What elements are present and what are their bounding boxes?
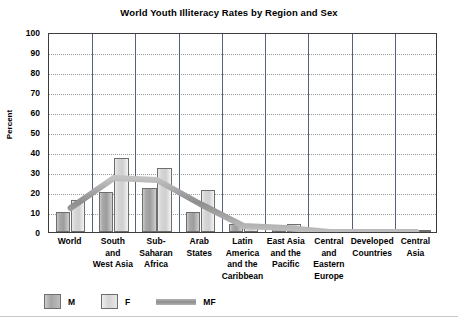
bar-m-7	[358, 230, 372, 233]
bar-m-6	[315, 230, 329, 233]
gridline	[49, 54, 436, 55]
y-tick-0: 0	[6, 228, 40, 238]
x-axis-category-labels: WorldSouthandWest AsiaSub-SaharanAfricaA…	[48, 236, 437, 298]
bar-f-4	[244, 224, 258, 232]
gridline	[49, 134, 436, 135]
x-category-line: Caribbean	[218, 271, 267, 283]
legend-label-m: M	[68, 297, 75, 307]
x-category-label-7: DevelopedCountries	[348, 236, 397, 259]
category-separator	[135, 34, 136, 232]
x-category-label-2: Sub-SaharanAfrica	[131, 236, 180, 271]
bar-f-0	[71, 200, 85, 232]
x-category-label-0: World	[45, 236, 94, 248]
legend-swatch-f-icon	[101, 294, 118, 309]
x-category-label-5: East Asiaand thePacific	[261, 236, 310, 271]
chart-legend: M F MF	[44, 294, 242, 309]
x-category-label-1: SouthandWest Asia	[88, 236, 137, 271]
y-tick-30: 30	[6, 168, 40, 178]
x-category-line: Developed	[348, 236, 397, 248]
x-category-line: Arab	[175, 236, 224, 248]
legend-item-f: F	[101, 294, 130, 309]
category-separator	[179, 34, 180, 232]
x-category-line: and	[304, 248, 353, 260]
x-category-line: Eastern	[304, 259, 353, 271]
legend-item-m: M	[44, 294, 75, 309]
x-category-label-3: ArabStates	[175, 236, 224, 259]
bar-f-2	[157, 168, 171, 232]
x-category-line: States	[175, 248, 224, 260]
gridline	[49, 74, 436, 75]
bar-f-7	[374, 230, 388, 233]
plot-area	[48, 33, 437, 233]
y-tick-50: 50	[6, 128, 40, 138]
y-tick-20: 20	[6, 188, 40, 198]
x-category-line: East Asia	[261, 236, 310, 248]
chart-figure: World Youth Illiteracy Rates by Region a…	[0, 0, 458, 323]
legend-label-mf: MF	[203, 297, 215, 307]
legend-swatch-m-icon	[44, 294, 61, 309]
bar-m-0	[56, 212, 70, 232]
category-separator	[352, 34, 353, 232]
y-axis-label: Percent	[5, 95, 14, 155]
gridline	[49, 154, 436, 155]
x-category-line: Countries	[348, 248, 397, 260]
x-category-line: Africa	[131, 259, 180, 271]
x-category-line: West Asia	[88, 259, 137, 271]
y-tick-90: 90	[6, 48, 40, 58]
bar-m-4	[229, 224, 243, 232]
x-category-line: Pacific	[261, 259, 310, 271]
x-category-line: and the	[218, 259, 267, 271]
x-category-line: and	[88, 248, 137, 260]
x-category-label-4: LatinAmericaand theCaribbean	[218, 236, 267, 282]
category-separator	[92, 34, 93, 232]
x-category-label-8: CentralAsia	[391, 236, 440, 259]
bottom-divider	[0, 316, 458, 317]
category-separator	[222, 34, 223, 232]
y-tick-60: 60	[6, 108, 40, 118]
bar-f-1	[114, 158, 128, 232]
legend-label-f: F	[125, 297, 130, 307]
category-separator	[265, 34, 266, 232]
bar-m-2	[142, 188, 156, 232]
x-category-line: Europe	[304, 271, 353, 283]
y-tick-80: 80	[6, 68, 40, 78]
bar-m-3	[186, 212, 200, 232]
x-category-line: Sub-	[131, 236, 180, 248]
x-category-line: Central	[304, 236, 353, 248]
x-category-line: World	[45, 236, 94, 248]
bar-f-6	[330, 230, 344, 233]
y-tick-70: 70	[6, 88, 40, 98]
gridline	[49, 174, 436, 175]
bar-f-8	[417, 230, 431, 233]
x-category-line: Asia	[391, 248, 440, 260]
x-category-line: Central	[391, 236, 440, 248]
y-tick-40: 40	[6, 148, 40, 158]
bar-m-5	[272, 228, 286, 232]
gridline	[49, 94, 436, 95]
bar-m-8	[402, 230, 416, 233]
x-category-line: Saharan	[131, 248, 180, 260]
chart-title: World Youth Illiteracy Rates by Region a…	[0, 7, 458, 18]
category-separator	[395, 34, 396, 232]
x-category-line: America	[218, 248, 267, 260]
x-category-line: Latin	[218, 236, 267, 248]
y-tick-10: 10	[6, 208, 40, 218]
x-category-label-6: CentralandEasternEurope	[304, 236, 353, 282]
x-category-line: South	[88, 236, 137, 248]
x-category-line: and the	[261, 248, 310, 260]
gridline	[49, 114, 436, 115]
category-separator	[308, 34, 309, 232]
bar-m-1	[99, 192, 113, 232]
legend-line-mf-icon	[156, 299, 196, 305]
bar-f-3	[201, 190, 215, 232]
bar-f-5	[287, 224, 301, 232]
y-tick-100: 100	[6, 28, 40, 38]
legend-item-mf: MF	[156, 297, 215, 307]
